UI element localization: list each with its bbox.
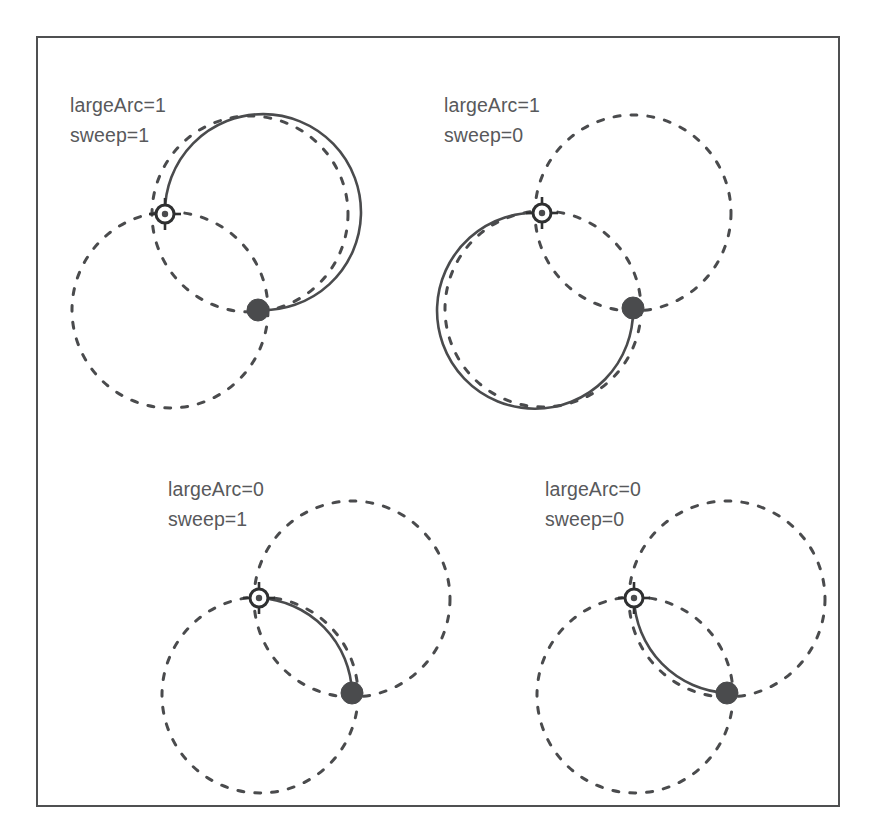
arc-path xyxy=(437,213,633,409)
arc-path xyxy=(634,598,727,693)
panel-label-sweep: sweep=1 xyxy=(168,508,247,530)
construction-circle-2 xyxy=(152,116,348,312)
construction-circle-2 xyxy=(254,501,450,697)
start-point-center-dot xyxy=(256,595,262,601)
start-point-center-dot xyxy=(631,595,637,601)
arc-end-point xyxy=(341,682,363,704)
panel-large0-sweep1: largeArc=0sweep=1 xyxy=(162,478,450,793)
panel-label-sweep: sweep=0 xyxy=(545,508,624,530)
construction-circle-2 xyxy=(629,501,825,697)
arc-end-point xyxy=(716,682,738,704)
panel-label-large-arc: largeArc=1 xyxy=(70,94,166,116)
arc-end-point xyxy=(622,297,644,319)
start-point-center-dot xyxy=(539,210,545,216)
arc-path xyxy=(259,598,352,693)
panel-label-large-arc: largeArc=0 xyxy=(545,478,641,500)
panel-label-large-arc: largeArc=1 xyxy=(444,94,540,116)
panel-large0-sweep0: largeArc=0sweep=0 xyxy=(537,478,825,793)
start-point-center-dot xyxy=(162,211,168,217)
panel-label-large-arc: largeArc=0 xyxy=(168,478,264,500)
panel-large1-sweep0: largeArc=1sweep=0 xyxy=(437,94,731,409)
panel-label-sweep: sweep=0 xyxy=(444,124,523,146)
panel-large1-sweep1: largeArc=1sweep=1 xyxy=(70,94,361,408)
figure-root: largeArc=1sweep=1largeArc=1sweep=0largeA… xyxy=(0,0,875,837)
arc-flags-diagram: largeArc=1sweep=1largeArc=1sweep=0largeA… xyxy=(0,0,875,837)
arc-end-point xyxy=(247,299,269,321)
panel-label-sweep: sweep=1 xyxy=(70,124,149,146)
construction-circle-1 xyxy=(72,212,268,408)
